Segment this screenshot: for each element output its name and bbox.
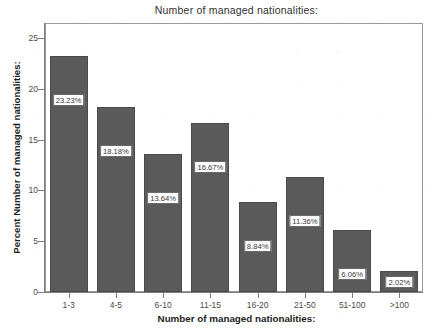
x-tick bbox=[116, 293, 117, 298]
x-tick bbox=[163, 293, 164, 298]
x-tick-label: 21-50 bbox=[294, 300, 316, 310]
x-tick-label: 16-20 bbox=[247, 300, 269, 310]
bar-value-label: 13.64% bbox=[147, 192, 179, 204]
x-tick bbox=[352, 293, 353, 298]
y-tick bbox=[38, 140, 44, 141]
bar[interactable] bbox=[97, 107, 135, 292]
y-axis-line bbox=[44, 23, 45, 293]
x-tick-label: 11-15 bbox=[200, 300, 221, 310]
x-axis-line bbox=[45, 292, 423, 293]
y-axis-title: Percent Number of managed nationalities: bbox=[11, 33, 22, 283]
chart-title: Number of managed nationalities: bbox=[45, 4, 428, 16]
y-tick-label: 0 bbox=[2, 287, 38, 297]
x-tick bbox=[305, 293, 306, 298]
y-tick bbox=[38, 292, 44, 293]
bar[interactable] bbox=[333, 230, 371, 292]
bar-value-label: 8.84% bbox=[244, 240, 272, 252]
bar-value-label: 16.67% bbox=[194, 161, 226, 173]
bar-value-label: 6.06% bbox=[338, 268, 366, 280]
y-tick bbox=[38, 38, 44, 39]
bar[interactable] bbox=[191, 123, 229, 292]
y-tick bbox=[38, 190, 44, 191]
bar-value-label: 18.18% bbox=[100, 145, 132, 157]
x-tick bbox=[399, 293, 400, 298]
bar[interactable] bbox=[286, 177, 324, 292]
bar-chart: Number of managed nationalities: 0510152… bbox=[0, 0, 428, 334]
x-tick-label: 6-10 bbox=[155, 300, 172, 310]
bar-value-label: 2.02% bbox=[386, 276, 414, 288]
x-tick bbox=[69, 293, 70, 298]
bar-value-label: 23.23% bbox=[53, 94, 85, 106]
x-tick bbox=[210, 293, 211, 298]
x-tick-label: 4-5 bbox=[110, 300, 122, 310]
x-tick-label: >100 bbox=[390, 300, 409, 310]
x-tick bbox=[258, 293, 259, 298]
bar[interactable] bbox=[50, 56, 88, 292]
y-tick bbox=[38, 241, 44, 242]
x-tick-label: 1-3 bbox=[62, 300, 74, 310]
bar-value-label: 11.36% bbox=[289, 215, 320, 227]
x-tick-label: 51-100 bbox=[339, 300, 365, 310]
x-axis-title: Number of managed nationalities: bbox=[45, 313, 428, 324]
bar[interactable] bbox=[144, 154, 182, 292]
y-tick bbox=[38, 89, 44, 90]
